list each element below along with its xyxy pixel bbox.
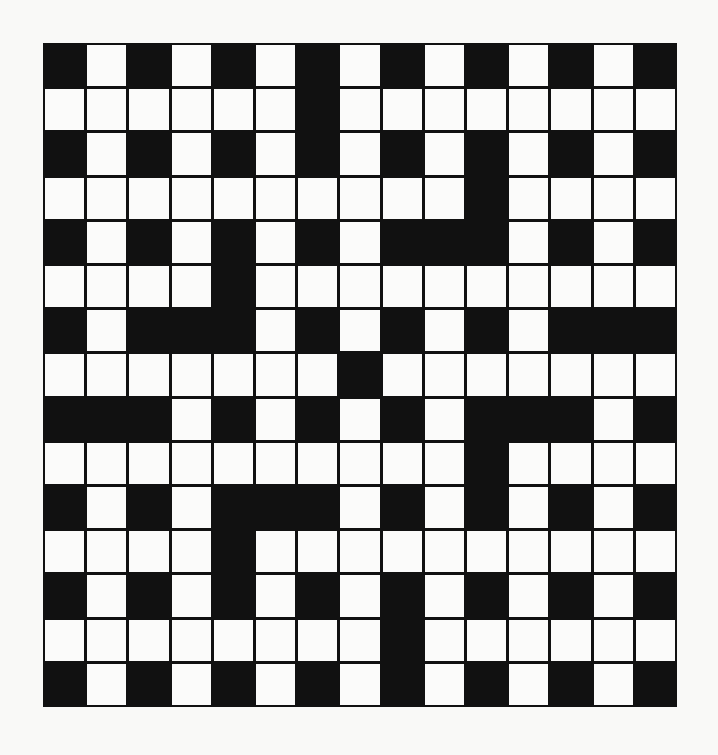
white-square[interactable] xyxy=(87,133,126,174)
white-square[interactable] xyxy=(340,178,379,219)
white-square[interactable] xyxy=(594,664,633,705)
white-square[interactable] xyxy=(425,45,464,86)
white-square[interactable] xyxy=(467,89,506,130)
white-square[interactable] xyxy=(383,354,422,395)
white-square[interactable] xyxy=(551,354,590,395)
white-square[interactable] xyxy=(636,531,675,572)
white-square[interactable] xyxy=(87,443,126,484)
white-square[interactable] xyxy=(129,443,168,484)
white-square[interactable] xyxy=(340,399,379,440)
white-square[interactable] xyxy=(87,178,126,219)
white-square[interactable] xyxy=(298,443,337,484)
white-square[interactable] xyxy=(129,89,168,130)
white-square[interactable] xyxy=(425,89,464,130)
white-square[interactable] xyxy=(214,443,253,484)
white-square[interactable] xyxy=(129,266,168,307)
white-square[interactable] xyxy=(256,178,295,219)
white-square[interactable] xyxy=(636,266,675,307)
white-square[interactable] xyxy=(509,222,548,263)
white-square[interactable] xyxy=(425,620,464,661)
white-square[interactable] xyxy=(256,89,295,130)
white-square[interactable] xyxy=(594,487,633,528)
white-square[interactable] xyxy=(256,575,295,616)
white-square[interactable] xyxy=(172,266,211,307)
white-square[interactable] xyxy=(172,487,211,528)
white-square[interactable] xyxy=(467,266,506,307)
white-square[interactable] xyxy=(467,354,506,395)
white-square[interactable] xyxy=(383,89,422,130)
white-square[interactable] xyxy=(509,354,548,395)
white-square[interactable] xyxy=(425,531,464,572)
white-square[interactable] xyxy=(509,575,548,616)
white-square[interactable] xyxy=(256,399,295,440)
white-square[interactable] xyxy=(509,266,548,307)
white-square[interactable] xyxy=(172,531,211,572)
white-square[interactable] xyxy=(256,443,295,484)
white-square[interactable] xyxy=(298,354,337,395)
white-square[interactable] xyxy=(129,354,168,395)
white-square[interactable] xyxy=(256,222,295,263)
white-square[interactable] xyxy=(256,133,295,174)
white-square[interactable] xyxy=(594,531,633,572)
white-square[interactable] xyxy=(172,399,211,440)
white-square[interactable] xyxy=(594,45,633,86)
white-square[interactable] xyxy=(509,443,548,484)
white-square[interactable] xyxy=(509,487,548,528)
white-square[interactable] xyxy=(636,178,675,219)
white-square[interactable] xyxy=(509,178,548,219)
white-square[interactable] xyxy=(340,266,379,307)
white-square[interactable] xyxy=(45,620,84,661)
white-square[interactable] xyxy=(551,266,590,307)
white-square[interactable] xyxy=(298,531,337,572)
white-square[interactable] xyxy=(383,443,422,484)
white-square[interactable] xyxy=(298,620,337,661)
white-square[interactable] xyxy=(87,45,126,86)
white-square[interactable] xyxy=(87,531,126,572)
white-square[interactable] xyxy=(172,222,211,263)
white-square[interactable] xyxy=(594,575,633,616)
white-square[interactable] xyxy=(594,354,633,395)
white-square[interactable] xyxy=(129,531,168,572)
white-square[interactable] xyxy=(45,531,84,572)
white-square[interactable] xyxy=(551,89,590,130)
white-square[interactable] xyxy=(551,443,590,484)
white-square[interactable] xyxy=(509,531,548,572)
white-square[interactable] xyxy=(298,266,337,307)
white-square[interactable] xyxy=(172,133,211,174)
white-square[interactable] xyxy=(340,575,379,616)
white-square[interactable] xyxy=(425,575,464,616)
white-square[interactable] xyxy=(256,266,295,307)
white-square[interactable] xyxy=(256,620,295,661)
white-square[interactable] xyxy=(256,310,295,351)
white-square[interactable] xyxy=(509,133,548,174)
white-square[interactable] xyxy=(551,620,590,661)
white-square[interactable] xyxy=(467,531,506,572)
white-square[interactable] xyxy=(594,399,633,440)
white-square[interactable] xyxy=(425,443,464,484)
white-square[interactable] xyxy=(298,178,337,219)
white-square[interactable] xyxy=(594,620,633,661)
white-square[interactable] xyxy=(45,443,84,484)
white-square[interactable] xyxy=(383,531,422,572)
white-square[interactable] xyxy=(87,354,126,395)
white-square[interactable] xyxy=(87,89,126,130)
white-square[interactable] xyxy=(172,354,211,395)
white-square[interactable] xyxy=(214,89,253,130)
white-square[interactable] xyxy=(636,89,675,130)
white-square[interactable] xyxy=(383,178,422,219)
white-square[interactable] xyxy=(87,664,126,705)
white-square[interactable] xyxy=(87,266,126,307)
white-square[interactable] xyxy=(340,310,379,351)
white-square[interactable] xyxy=(214,620,253,661)
white-square[interactable] xyxy=(45,266,84,307)
white-square[interactable] xyxy=(87,487,126,528)
white-square[interactable] xyxy=(172,178,211,219)
white-square[interactable] xyxy=(45,354,84,395)
white-square[interactable] xyxy=(256,664,295,705)
white-square[interactable] xyxy=(425,310,464,351)
white-square[interactable] xyxy=(172,575,211,616)
white-square[interactable] xyxy=(340,531,379,572)
white-square[interactable] xyxy=(509,620,548,661)
white-square[interactable] xyxy=(594,89,633,130)
white-square[interactable] xyxy=(340,620,379,661)
